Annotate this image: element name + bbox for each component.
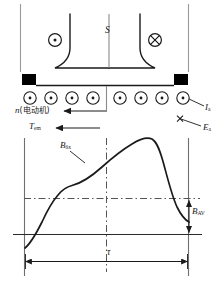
armature-current-label: Ia [205, 103, 210, 113]
average-flux-density-subscript: AV [198, 210, 205, 216]
figure-drawing [0, 0, 222, 283]
flux-density-curve-subscript: δx [66, 144, 71, 150]
conductor-marker [156, 92, 168, 104]
conductor-marker [45, 92, 57, 104]
leader-lines [70, 99, 204, 163]
conductor-marker [135, 92, 147, 104]
ia-leader [189, 99, 204, 106]
average-flux-density-label: BAV [192, 207, 205, 217]
armature-emf-subscript: a [209, 126, 211, 132]
armature-current-subscript: a [208, 106, 210, 112]
circle-cross-icon-pole-right [149, 34, 162, 47]
speed-label: n(电动机) [15, 106, 50, 115]
pole-piece [55, 14, 155, 68]
conductor-marker [24, 92, 36, 104]
conductor-marker [66, 92, 78, 104]
conductor-marker [177, 92, 189, 104]
pole-label-s: S [105, 26, 110, 36]
torque-subscript: em [34, 125, 41, 131]
conductor-marker [87, 92, 99, 104]
speed-motor-text: (电动机) [20, 106, 50, 115]
circle-dot-icon-pole-left [49, 34, 62, 47]
flux-density-curve-label: Bδx [60, 141, 71, 151]
figure-container: S n(电动机) Tem Ia Ea Bδx BAV τ [0, 0, 222, 283]
torque-label: Tem [29, 122, 41, 132]
armature-emf-label: Ea [203, 123, 211, 133]
pole-pitch-label: τ [107, 248, 110, 258]
frame-rails [21, 4, 189, 72]
cross-icon-emf [177, 116, 183, 122]
ea-leader [181, 119, 201, 126]
conductor-marker [114, 92, 126, 104]
armature-surface [22, 74, 188, 86]
direction-arrows [56, 111, 106, 128]
bdx-leader [70, 151, 85, 163]
